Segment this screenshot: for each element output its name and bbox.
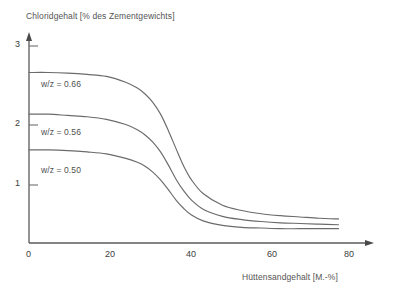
x-tick-label-80: 80 — [344, 249, 354, 259]
plot-area — [0, 0, 394, 302]
series-label-wz-056: w/z = 0.56 — [41, 127, 81, 137]
x-tick-label-20: 20 — [105, 249, 115, 259]
x-tick-label-0: 0 — [26, 249, 31, 259]
x-axis-arrow-icon — [365, 240, 374, 246]
y-tick-label-2: 2 — [15, 118, 20, 128]
series-label-wz-050: w/z = 0.50 — [41, 165, 81, 175]
chart-figure: Chloridgehalt [% des Zementgewichts] 3 2… — [0, 0, 394, 302]
axis-lines — [26, 32, 374, 246]
x-tick-label-60: 60 — [267, 249, 277, 259]
data-series-line — [29, 72, 339, 218]
y-axis-arrow-icon — [26, 32, 32, 41]
x-axis-title: Hüttensandgehalt [M.-%] — [242, 272, 338, 282]
y-tick-label-1: 1 — [15, 178, 20, 188]
data-series-group — [29, 72, 339, 228]
series-label-wz-066: w/z = 0.66 — [41, 79, 81, 89]
y-axis-ticks — [29, 46, 38, 185]
x-tick-label-40: 40 — [186, 249, 196, 259]
y-tick-label-3: 3 — [15, 39, 20, 49]
